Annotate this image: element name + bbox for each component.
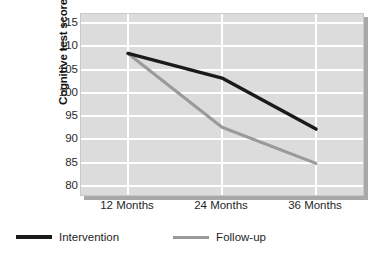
cognitive-test-score-line-chart: Cognitive test score 8085909510010511011…: [0, 0, 374, 256]
legend-label: Follow-up: [216, 231, 266, 243]
y-axis: Cognitive test score 8085909510010511011…: [40, 0, 78, 256]
chart-legend: InterventionFollow-up: [16, 226, 360, 248]
y-axis-tick-label: 80: [44, 179, 78, 191]
series-line-follow-up: [128, 53, 316, 163]
legend-item[interactable]: Intervention: [16, 231, 119, 243]
x-axis-tick-label: 24 Months: [176, 199, 266, 211]
y-axis-tick-label: 115: [44, 16, 78, 28]
y-axis-tick-label: 90: [44, 132, 78, 144]
x-axis: 12 Months24 Months36 Months: [80, 199, 364, 219]
plot-area: [80, 13, 364, 196]
y-axis-tick-label: 85: [44, 156, 78, 168]
y-axis-tick-label: 105: [44, 63, 78, 75]
series-layer: [81, 14, 363, 195]
legend-item[interactable]: Follow-up: [173, 231, 266, 243]
y-axis-tick-label: 110: [44, 39, 78, 51]
x-axis-tick-label: 36 Months: [270, 199, 360, 211]
plot-frame: [80, 13, 364, 196]
y-axis-tick-label: 95: [44, 109, 78, 121]
legend-swatch-icon: [173, 236, 209, 239]
x-axis-tick-label: 12 Months: [82, 199, 172, 211]
legend-label: Intervention: [59, 231, 119, 243]
legend-swatch-icon: [16, 235, 52, 239]
y-axis-tick-label: 100: [44, 86, 78, 98]
series-line-intervention: [128, 53, 316, 129]
